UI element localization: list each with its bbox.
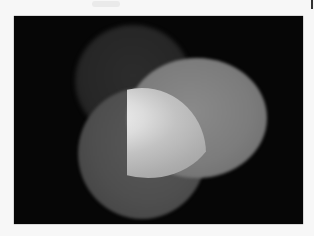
page-edge-mark: [311, 0, 313, 9]
overlap-highlight: [127, 88, 206, 178]
bright-overlap-region: [127, 88, 206, 178]
light-ellipses-photo: [14, 16, 303, 224]
faint-scan-mark: [92, 1, 120, 7]
